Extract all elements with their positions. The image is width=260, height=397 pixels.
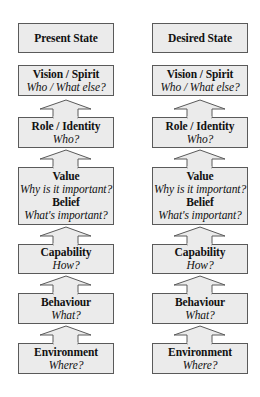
level-question: Why is it important? [154,183,246,196]
header-label: Desired State [168,32,232,45]
level-behaviour: Behaviour What? [18,293,114,324]
level-question: Why is it important? [20,183,112,196]
level-title: Behaviour [175,296,225,309]
level-title-secondary: Belief [186,196,214,209]
up-arrow-icon [152,276,248,294]
up-arrow-icon [18,276,114,294]
up-arrow-icon [18,326,114,344]
level-value-belief: Value Why is it important? Belief What's… [18,167,114,225]
up-arrow-icon [152,227,248,245]
up-arrow-icon [18,100,114,118]
level-title: Vision / Spirit [167,68,233,81]
level-vision-spirit: Vision / Spirit Who / What else? [18,65,114,96]
level-question: What? [51,309,81,322]
level-question: How? [186,259,213,272]
level-capability: Capability How? [18,244,114,274]
level-behaviour: Behaviour What? [152,293,248,324]
level-question: Who / What else? [160,81,239,94]
level-environment: Environment Where? [18,343,114,374]
level-title: Capability [41,246,92,259]
desired-state-header: Desired State [152,23,248,53]
level-title: Vision / Spirit [33,68,99,81]
level-question-secondary: What's important? [24,209,108,222]
level-title: Value [186,170,213,183]
level-question: What? [185,309,215,322]
level-question: Who? [53,133,79,146]
level-question: Where? [183,359,218,372]
up-arrow-icon [152,150,248,168]
present-state-column: Present State Vision / Spirit Who / What… [18,0,114,397]
level-title: Role / Identity [32,120,101,133]
level-title-secondary: Belief [52,196,80,209]
level-title: Role / Identity [166,120,235,133]
level-question: Where? [49,359,84,372]
level-role-identity: Role / Identity Who? [18,117,114,148]
header-label: Present State [34,32,97,45]
level-title: Capability [175,246,226,259]
level-title: Value [52,170,79,183]
level-role-identity: Role / Identity Who? [152,117,248,148]
level-title: Environment [168,346,232,359]
level-vision-spirit: Vision / Spirit Who / What else? [152,65,248,96]
level-question-secondary: What's important? [158,209,242,222]
desired-state-column: Desired State Vision / Spirit Who / What… [152,0,248,397]
present-state-header: Present State [18,23,114,53]
level-question: Who / What else? [26,81,105,94]
level-value-belief: Value Why is it important? Belief What's… [152,167,248,225]
level-question: Who? [187,133,213,146]
up-arrow-icon [18,227,114,245]
level-title: Behaviour [41,296,91,309]
up-arrow-icon [152,100,248,118]
up-arrow-icon [18,150,114,168]
level-title: Environment [34,346,98,359]
level-environment: Environment Where? [152,343,248,374]
level-capability: Capability How? [152,244,248,274]
level-question: How? [52,259,79,272]
up-arrow-icon [152,326,248,344]
